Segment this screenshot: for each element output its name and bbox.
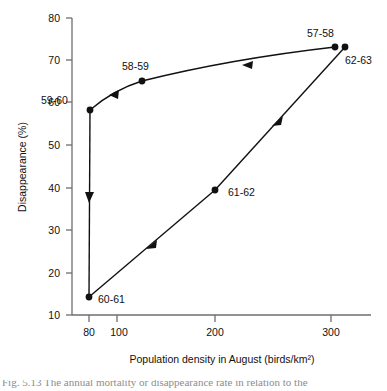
- data-markers: [86, 44, 349, 301]
- data-point-6162[interactable]: [212, 187, 219, 194]
- y-tick-label-20: 20: [48, 267, 60, 279]
- arrow-markers: [85, 61, 283, 249]
- data-label-6263: 62-63: [345, 54, 372, 66]
- x-axis: 80 100 200 300 Population density in Aug…: [72, 315, 371, 365]
- data-point-6263[interactable]: [342, 44, 349, 51]
- data-point-labels: 57-58 58-59 59-60 60-61 61-62 62-63: [41, 27, 372, 305]
- y-tick-label-70: 70: [48, 54, 60, 66]
- y-tick-label-50: 50: [48, 139, 60, 151]
- data-point-5758[interactable]: [332, 44, 339, 51]
- x-tick-label-300: 300: [322, 326, 340, 338]
- y-tick-label-10: 10: [48, 309, 60, 321]
- arrowhead-left-5758-5859: [242, 61, 253, 69]
- x-tick-label-100: 100: [110, 326, 128, 338]
- x-tick-label-200: 200: [206, 326, 224, 338]
- y-tick-label-30: 30: [48, 224, 60, 236]
- x-axis-title: Population density in August (birds/km²): [129, 353, 314, 365]
- y-axis: 80 70 60 50 40 30 20 10 Disappearance (%…: [16, 12, 72, 321]
- segment-5758-5859: [142, 47, 335, 81]
- y-axis-title: Disappearance (%): [16, 122, 28, 212]
- segment-6162-6263: [215, 47, 345, 190]
- arrowhead-down-5960-6061: [85, 192, 94, 203]
- data-label-5859: 58-59: [122, 60, 149, 72]
- data-label-5758: 57-58: [307, 27, 334, 39]
- segment-5960-6061: [89, 110, 90, 297]
- data-point-5859[interactable]: [139, 78, 146, 85]
- segment-6061-6162: [89, 190, 215, 297]
- y-tick-label-40: 40: [48, 182, 60, 194]
- data-point-5960[interactable]: [87, 107, 94, 114]
- series-trajectory: [89, 47, 345, 297]
- hysteresis-line-chart: 80 70 60 50 40 30 20 10 Disappearance (%…: [0, 0, 387, 391]
- data-label-5960: 59-60: [41, 94, 68, 106]
- y-tick-label-80: 80: [48, 12, 60, 24]
- data-label-6061: 60-61: [98, 293, 125, 305]
- arrowhead-downleft-5859-5960: [109, 90, 119, 99]
- x-tick-label-80: 80: [83, 326, 95, 338]
- figure-caption-clipped: Fig. 5.13 The annual mortality or disapp…: [0, 380, 387, 391]
- data-point-6061[interactable]: [86, 294, 93, 301]
- figure-caption-text: Fig. 5.13 The annual mortality or disapp…: [2, 380, 308, 388]
- data-label-6162: 61-62: [228, 186, 255, 198]
- chart-figure: 80 70 60 50 40 30 20 10 Disappearance (%…: [0, 0, 387, 391]
